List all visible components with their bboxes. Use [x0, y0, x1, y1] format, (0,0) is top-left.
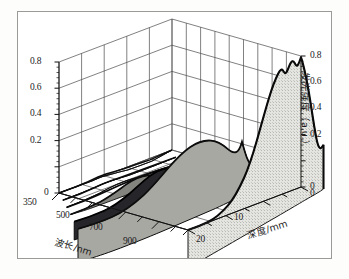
waterfall-plot-3d — [0, 0, 349, 279]
x-tick-900: 900 — [123, 236, 137, 246]
z-tick-left-4: 0 — [44, 187, 49, 197]
x-tick-700: 700 — [89, 222, 103, 232]
z-tick-left-1: 0.6 — [30, 82, 41, 92]
z-tick-right-0: 0.8 — [310, 50, 321, 60]
x-tick-500: 500 — [56, 210, 70, 220]
y-tick-20: 20 — [196, 234, 205, 244]
z-tick-left-0: 0.8 — [30, 56, 41, 66]
y-tick-0: 0 — [310, 188, 315, 198]
y-tick-10: 10 — [234, 212, 243, 222]
back-wall-left-grid — [59, 19, 172, 193]
z-tick-left-2: 0.4 — [30, 108, 41, 118]
figure-canvas: 0.8 0.6 0.4 0.2 0 0.8 0.6 0.4 0.2 0 350 … — [0, 0, 349, 279]
z-axis-left — [55, 62, 60, 193]
z-tick-left-3: 0.2 — [30, 135, 41, 145]
z-axis-title: 发光强度（a.u.） — [299, 72, 313, 150]
x-tick-350: 350 — [23, 197, 37, 207]
